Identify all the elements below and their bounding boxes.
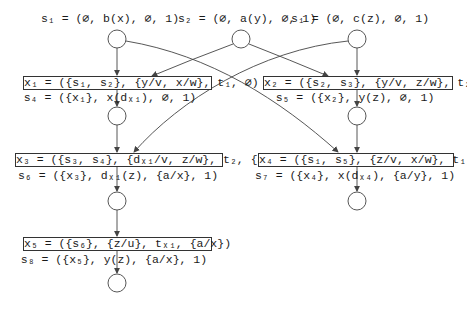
transition-x3: x₃ = ({s₃, s₄}, {dₓ₁/v, z/w}, t₂, {a/x}) bbox=[15, 153, 223, 167]
place-s6 bbox=[108, 192, 126, 210]
transition-x1: x₁ = ({s₁, s₂}, {y/v, x/w}, t₁, ∅) bbox=[23, 76, 212, 90]
place-s2 bbox=[232, 30, 250, 48]
state-label-s8: s₈ = ({x₅}, y(z), {a/x}, 1) bbox=[21, 253, 207, 266]
state-label-s1-right: s₁ = (∅, c(z), ∅, 1) bbox=[291, 12, 429, 25]
state-label-s5: s₅ = ({x₂}, y(z), ∅, 1) bbox=[276, 91, 435, 104]
transition-x5: x₅ = ({s₆}, {z/u}, tₓ₁, {a/x}) bbox=[23, 237, 212, 251]
place-s4 bbox=[108, 107, 126, 125]
transition-x4: x₄ = ({s₁, s₅}, {z/v, x/w}, t₁, {a/y}) bbox=[258, 153, 454, 167]
state-label-s4: s₄ = ({x₁}, x(dₓ₁), ∅, 1) bbox=[24, 91, 197, 104]
place-s5 bbox=[348, 107, 366, 125]
state-label-s7: s₇ = ({x₄}, x(dₓ₄), {a/y}, 1) bbox=[255, 169, 455, 182]
place-s1-left bbox=[108, 30, 126, 48]
state-label-s1-left: s₁ = (∅, b(x), ∅, 1) bbox=[41, 12, 179, 25]
place-s1-right bbox=[348, 30, 366, 48]
place-s8 bbox=[108, 274, 126, 292]
transition-x2: x₂ = ({s₂, s₃}, {y/v, z/w}, t₂, ∅) bbox=[263, 76, 453, 90]
place-s7 bbox=[348, 192, 366, 210]
state-label-s6: s₆ = ({x₃}, dₓ₁(z), {a/x}, 1) bbox=[18, 169, 218, 182]
